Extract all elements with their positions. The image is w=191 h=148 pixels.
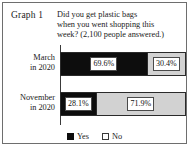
question-text: Did you get plastic bags when you went s… [57, 10, 183, 41]
legend-label-no: No [112, 132, 122, 141]
stacked-bar-march: 69.6% 30.4% [60, 52, 186, 76]
bar-segment-yes-march: 69.6% [61, 53, 147, 75]
chart-legend: Yes No [3, 132, 186, 141]
graph-card: Graph 1 Did you get plastic bags when yo… [2, 2, 187, 144]
legend-label-yes: Yes [77, 132, 89, 141]
legend-item-yes: Yes [67, 132, 89, 141]
category-label-november-line-1: November [3, 93, 55, 103]
outlined-square-icon [102, 133, 109, 140]
question-line-2: when you went shopping this [57, 20, 183, 30]
chart-row-march: March in 2020 69.6% 30.4% [3, 52, 186, 76]
category-label-november: November in 2020 [3, 93, 55, 114]
stacked-bar-november: 28.1% 71.9% [60, 92, 186, 116]
chart-row-november: November in 2020 28.1% 71.9% [3, 92, 186, 116]
bar-value-label-no-november: 71.9% [127, 97, 154, 111]
category-label-november-line-2: in 2020 [3, 103, 55, 113]
bar-segment-yes-november: 28.1% [61, 93, 96, 115]
graph-number-label: Graph 1 [11, 10, 43, 20]
question-line-3: week? (2,100 people answered.) [57, 30, 183, 40]
category-label-march-line-1: March [3, 53, 55, 63]
legend-item-no: No [102, 132, 122, 141]
filled-square-icon [67, 133, 74, 140]
bar-value-label-yes-march: 69.6% [90, 57, 117, 71]
bar-segment-no-november: 71.9% [96, 93, 185, 115]
bar-value-label-yes-november: 28.1% [65, 97, 92, 111]
bar-segment-no-march: 30.4% [147, 53, 185, 75]
question-line-1: Did you get plastic bags [57, 10, 183, 20]
category-label-march: March in 2020 [3, 53, 55, 74]
bar-value-label-no-march: 30.4% [153, 57, 180, 71]
category-label-march-line-2: in 2020 [3, 63, 55, 73]
